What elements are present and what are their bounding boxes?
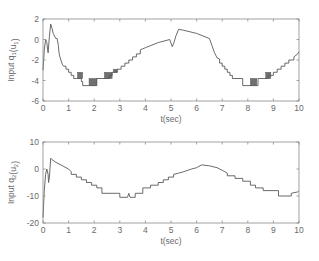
x-tick-label: 9: [271, 103, 276, 113]
x-tick-label: 10: [294, 103, 304, 113]
x-axis-label: t(sec): [160, 114, 181, 124]
chattering-region: [113, 69, 117, 72]
axes-box: [43, 142, 299, 223]
y-tick-label: -6: [31, 96, 39, 106]
y-axis-label: Input q1(u1): [6, 38, 20, 81]
y-tick-label: -2: [31, 55, 39, 65]
y-tick-label: 0: [34, 35, 39, 45]
x-tick-label: 4: [143, 225, 148, 235]
y-tick-label: 0: [34, 164, 39, 174]
x-tick-label: 1: [66, 225, 71, 235]
x-tick-label: 9: [271, 225, 276, 235]
axes-box: [43, 19, 299, 101]
y-tick-label: 2: [34, 14, 39, 24]
x-tick-label: 2: [92, 225, 97, 235]
x-axis-label: t(sec): [160, 236, 181, 246]
y-tick-label: -20: [27, 218, 40, 228]
y-axis-label: Input q2(u2): [6, 161, 20, 204]
x-tick-label: 0: [41, 103, 46, 113]
x-tick-label: 2: [92, 103, 97, 113]
x-tick-label: 7: [220, 103, 225, 113]
x-tick-label: 1: [66, 103, 71, 113]
chattering-region: [250, 78, 256, 85]
x-tick-label: 0: [41, 225, 46, 235]
x-tick-label: 3: [117, 225, 122, 235]
x-tick-label: 5: [169, 103, 174, 113]
x-tick-label: 4: [143, 103, 148, 113]
x-tick-label: 7: [220, 225, 225, 235]
x-tick-label: 10: [294, 225, 304, 235]
subplot-u2: 012345678910100-10-20t(sec)Input q2(u2): [6, 137, 304, 246]
chattering-region: [89, 78, 97, 85]
y-tick-label: -10: [27, 191, 40, 201]
chattering-region: [78, 72, 83, 78]
x-tick-label: 8: [245, 103, 250, 113]
subplot-u1: 01234567891020-2-4-6t(sec)Input q1(u1): [6, 14, 304, 124]
series-u2: [43, 158, 299, 217]
x-tick-label: 8: [245, 225, 250, 235]
y-tick-label: -4: [31, 76, 39, 86]
x-tick-label: 5: [169, 225, 174, 235]
x-tick-label: 6: [194, 103, 199, 113]
x-tick-label: 6: [194, 225, 199, 235]
x-tick-label: 3: [117, 103, 122, 113]
figure: 01234567891020-2-4-6t(sec)Input q1(u1) 0…: [0, 0, 319, 261]
y-tick-label: 10: [30, 137, 40, 147]
